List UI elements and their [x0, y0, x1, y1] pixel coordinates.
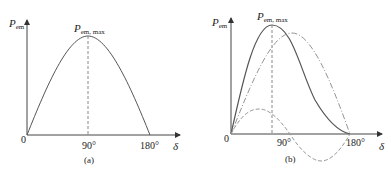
peak-label: Pem, max	[73, 22, 105, 36]
fundamental-curve	[231, 33, 350, 134]
y-axis-label: Pem	[8, 17, 25, 31]
power-angle-diagrams: Pem Pem, max 0 90° 180° δ (a) Pem Pem, m…	[0, 0, 391, 180]
power-curve	[27, 36, 150, 135]
panel-label-a: (a)	[84, 155, 94, 165]
x-axis-label: δ	[379, 140, 385, 152]
panel-a: Pem Pem, max 0 90° 180° δ (a)	[8, 17, 180, 165]
origin-label: 0	[224, 133, 229, 144]
peak-label: Pem, max	[256, 10, 288, 24]
y-axis-label: Pem	[211, 16, 228, 30]
panel-b: Pem Pem, max 0 90° 180° δ (b)	[211, 10, 385, 164]
origin-label: 0	[21, 134, 26, 145]
tick-90: 90°	[82, 140, 96, 151]
tick-180: 180°	[140, 140, 159, 151]
tick-90: 90°	[277, 137, 291, 148]
x-axis-label: δ	[173, 140, 179, 152]
panel-label-b: (b)	[285, 154, 296, 164]
resultant-curve	[231, 25, 350, 134]
tick-180: 180°	[346, 137, 365, 148]
